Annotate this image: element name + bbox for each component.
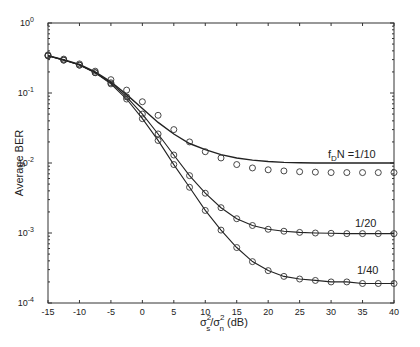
x-tick-label: -15 (41, 307, 54, 317)
y-tick-label: 10-1 (18, 86, 34, 98)
x-tick-label: -5 (107, 307, 115, 317)
y-axis-label: Average BER (13, 130, 25, 197)
data-point-1 (360, 170, 366, 176)
x-tick-label: 35 (358, 307, 368, 317)
data-point-1 (171, 127, 177, 133)
series-label-1-20: 1/20 (355, 217, 376, 229)
data-point-1 (265, 167, 271, 173)
svg-text:σ2s/σ2n(dB): σ2s/σ2n(dB) (200, 313, 248, 333)
x-tick-label: 30 (326, 307, 336, 317)
x-tick-label: 20 (263, 307, 273, 317)
data-point-1 (234, 162, 240, 168)
axes: -15-10-5051015202530354010-410-310-210-1… (18, 16, 399, 317)
x-axis-label: σ2s/σ2n(dB) (200, 313, 248, 333)
data-point-1 (281, 168, 287, 174)
series-line-2 (48, 56, 394, 234)
x-tick-label: 25 (295, 307, 305, 317)
data-point-1 (312, 169, 318, 175)
series-label-1-40: 1/40 (357, 264, 378, 276)
x-tick-label: 5 (171, 307, 176, 317)
x-tick-label: 40 (389, 307, 399, 317)
data-point-1 (249, 165, 255, 171)
series-label-1-10: fDN =1/10 (328, 148, 376, 163)
x-label-unit: (dB) (227, 316, 248, 328)
data-point-1 (139, 99, 145, 105)
x-label-sup-n: 2 (220, 313, 225, 322)
data-point-1 (297, 169, 303, 175)
data-point-1 (124, 87, 130, 93)
data-point-1 (328, 170, 334, 176)
y-tick-label: 10-3 (18, 226, 34, 238)
y-tick-label: 100 (20, 16, 34, 28)
x-tick-label: 0 (140, 307, 145, 317)
series-line-0 (48, 56, 394, 163)
data-point-1 (155, 112, 161, 118)
data-point-1 (344, 170, 350, 176)
x-label-sub-n: n (220, 324, 224, 333)
x-tick-label: -10 (73, 307, 86, 317)
data-point-1 (218, 155, 224, 161)
plot-area (45, 52, 397, 287)
data-point-1 (375, 170, 381, 176)
series-line-3 (48, 56, 394, 284)
ber-chart: -15-10-5051015202530354010-410-310-210-1… (0, 0, 420, 347)
y-tick-label: 10-4 (18, 296, 34, 308)
